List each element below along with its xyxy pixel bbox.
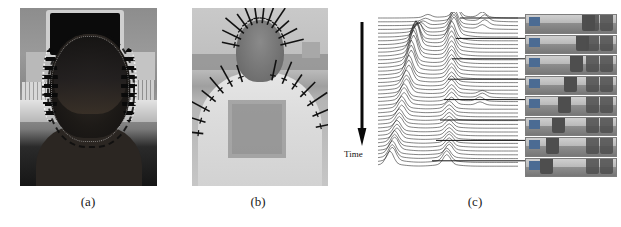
waterfall-trace xyxy=(378,116,518,128)
thumbnail-static-subject-1 xyxy=(586,55,599,72)
thumbnail-static-subject-1 xyxy=(586,137,599,154)
waterfall-trace xyxy=(378,105,518,117)
thumbnail-moving-subject xyxy=(558,96,571,113)
thumbnail-static-subject-1 xyxy=(586,76,599,93)
thumbnail-moving-subject xyxy=(570,55,583,72)
thumbnail-marker-box xyxy=(529,17,540,26)
waterfall-traces xyxy=(378,12,518,172)
video-frame-thumbnail[interactable] xyxy=(525,55,617,75)
thumbnail-moving-subject xyxy=(564,76,577,93)
thumbnail-marker-box xyxy=(529,99,540,108)
thumbnail-static-subject-2 xyxy=(600,55,613,72)
waterfall-trace xyxy=(378,12,518,22)
caption-a: (a) xyxy=(48,194,128,210)
thumbnail-static-subject-2 xyxy=(600,137,613,154)
tracked-contour-inner xyxy=(51,36,129,142)
video-frame-thumbnail[interactable] xyxy=(525,35,617,55)
waterfall-trace xyxy=(378,109,518,121)
figure-container: (a) (b) Time (c) xyxy=(0,0,621,227)
thumbnail-moving-subject xyxy=(540,158,553,175)
thumbnail-moving-subject xyxy=(546,137,559,154)
waterfall-trace xyxy=(378,50,518,71)
thumbnail-static-subject-1 xyxy=(586,117,599,134)
panel-a-scene xyxy=(20,8,157,186)
video-frame-thumbnail[interactable] xyxy=(525,96,617,116)
video-frame-thumbnail[interactable] xyxy=(525,158,617,178)
waterfall-trace xyxy=(378,21,518,41)
thumbnail-marker-box xyxy=(529,79,540,88)
waterfall-trace xyxy=(378,120,518,132)
thumbnail-marker-box xyxy=(529,38,540,47)
contour-normals-overlay xyxy=(192,8,328,186)
video-frame-thumbnail[interactable] xyxy=(525,117,617,137)
panel-b-photograph xyxy=(192,8,328,186)
thumbnail-marker-box xyxy=(529,58,540,67)
waterfall-trace xyxy=(378,124,518,136)
thumbnail-marker-box xyxy=(529,161,540,170)
thumbnail-static-subject-2 xyxy=(600,14,613,31)
waterfall-trace xyxy=(378,12,518,18)
caption-b: (b) xyxy=(218,194,298,210)
thumbnail-static-subject-1 xyxy=(586,158,599,175)
time-arrow-icon xyxy=(355,20,369,148)
thumbnail-static-subject-2 xyxy=(600,96,613,113)
waterfall-trace xyxy=(378,14,518,33)
video-frame-thumbnail[interactable] xyxy=(525,76,617,96)
thumbnail-strip xyxy=(525,14,617,178)
video-frame-thumbnail[interactable] xyxy=(525,137,617,157)
thumbnail-static-subject-2 xyxy=(600,117,613,134)
thumbnail-marker-box xyxy=(529,120,540,129)
panel-a-photograph xyxy=(20,8,157,186)
waterfall-trace xyxy=(378,128,518,140)
thumbnail-moving-subject xyxy=(552,117,565,134)
thumbnail-static-subject-2 xyxy=(600,158,613,175)
thumbnail-marker-box xyxy=(529,140,540,149)
waterfall-trace xyxy=(378,113,518,125)
thumbnail-static-subject-1 xyxy=(586,14,599,31)
thumbnail-static-subject-1 xyxy=(586,35,599,52)
time-axis-label: Time xyxy=(344,149,363,159)
panel-c-waterfall-chart: Time xyxy=(340,6,621,186)
thumbnail-static-subject-2 xyxy=(600,76,613,93)
thumbnail-static-subject-1 xyxy=(586,96,599,113)
thumbnail-static-subject-2 xyxy=(600,35,613,52)
caption-c: (c) xyxy=(435,194,515,210)
video-frame-thumbnail[interactable] xyxy=(525,14,617,34)
